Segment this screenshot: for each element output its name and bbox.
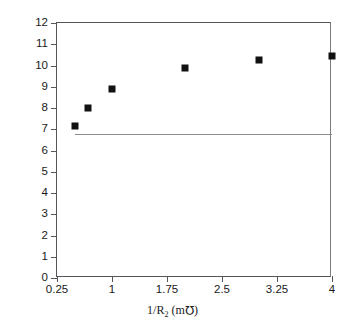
data-point-marker [255,57,262,64]
x-tick-mark [57,276,58,282]
y-tick-label: 5 [42,166,48,178]
y-tick-mark [51,214,57,215]
y-tick-label: 4 [42,187,48,199]
x-axis-title-prefix: 1/R [147,303,164,317]
y-tick-label: 1 [42,251,48,263]
x-tick-label: 3.25 [266,284,288,296]
y-tick-label: 2 [42,230,48,242]
y-tick-label: 3 [42,209,48,221]
data-point-marker [182,64,189,71]
x-tick-label: 0.25 [46,284,68,296]
x-tick-mark [332,276,333,282]
x-tick-label: 1.75 [156,284,178,296]
x-tick-mark [167,276,168,282]
mho-icon: Ω [185,303,194,317]
y-tick-label: 12 [35,17,48,29]
y-tick-mark [51,44,57,45]
data-point-marker [84,105,91,112]
y-tick-mark [51,151,57,152]
y-tick-label: 9 [42,81,48,93]
y-tick-mark [51,87,57,88]
chart-figure: Collector Current (mA) 0123456789101112 … [0,0,345,329]
x-tick-mark [112,276,113,282]
x-tick-label: 1 [109,284,115,296]
plot-area: 0123456789101112 0.2511.752.53.254 [56,22,331,277]
y-tick-label: 11 [36,39,48,51]
y-tick-mark [51,23,57,24]
y-tick-mark [51,193,57,194]
horizontal-reference [75,134,332,135]
x-tick-mark [222,276,223,282]
x-axis-title-unit: (mΩ) [168,303,198,317]
data-point-marker [109,85,116,92]
y-tick-label: 7 [42,124,48,136]
y-tick-mark [51,236,57,237]
data-point-marker [329,52,336,59]
y-tick-mark [51,66,57,67]
x-tick-label: 4 [329,284,335,296]
y-tick-mark [51,129,57,130]
x-tick-label: 2.5 [214,284,230,296]
y-tick-label: 6 [42,145,48,157]
x-axis-title: 1/R2 (mΩ) [0,303,345,319]
y-tick-mark [51,172,57,173]
x-tick-mark [277,276,278,282]
y-tick-label: 10 [35,60,48,72]
y-tick-label: 8 [42,102,48,114]
y-tick-mark [51,257,57,258]
y-tick-mark [51,108,57,109]
data-point-marker [72,123,79,130]
